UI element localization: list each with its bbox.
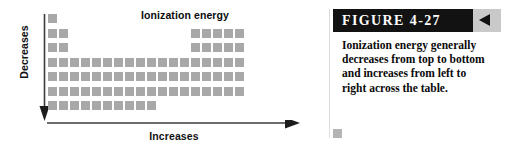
periodic-table-cell (202, 43, 211, 52)
periodic-table-cell (224, 43, 233, 52)
periodic-table-cell (48, 29, 57, 38)
periodic-table-cell (180, 72, 189, 81)
callout-corner-mark (333, 129, 342, 138)
periodic-table-cell (125, 58, 134, 67)
periodic-table-cell (114, 101, 123, 110)
periodic-table-grid (48, 14, 300, 115)
periodic-table-cell (213, 58, 222, 67)
periodic-table-cell (191, 43, 200, 52)
periodic-table-cell (235, 29, 244, 38)
x-axis-label: Increases (47, 130, 301, 142)
figure-header: FIGURE 4-27 (333, 9, 473, 32)
periodic-table-cell (114, 87, 123, 96)
periodic-table-cell (147, 58, 156, 67)
periodic-table-cell (70, 72, 79, 81)
periodic-table-cell (191, 29, 200, 38)
periodic-table-cell (81, 101, 90, 110)
periodic-table-cell (224, 29, 233, 38)
figure-caption-text: Ionization energy generally decreases fr… (342, 38, 493, 95)
periodic-table-cell (125, 72, 134, 81)
figure-caption-body: Ionization energy generally decreases fr… (333, 32, 501, 138)
periodic-table-cell (48, 72, 57, 81)
triangle-left-icon (479, 14, 490, 26)
periodic-table-cell (70, 58, 79, 67)
periodic-table-cell (59, 29, 68, 38)
periodic-table-cell (213, 29, 222, 38)
periodic-table-cell (92, 101, 101, 110)
periodic-table-cell (213, 72, 222, 81)
periodic-table-cell (125, 87, 134, 96)
periodic-table-cell (169, 87, 178, 96)
periodic-table-cell (235, 87, 244, 96)
periodic-table-cell (136, 87, 145, 96)
periodic-table-cell (136, 101, 145, 110)
periodic-table-cell (81, 72, 90, 81)
periodic-table-cell (92, 87, 101, 96)
periodic-table-cell (136, 72, 145, 81)
callout-header-band: FIGURE 4-27 (333, 9, 501, 32)
periodic-table-cell (235, 58, 244, 67)
periodic-table-cell (103, 101, 112, 110)
periodic-table-cell (48, 101, 57, 110)
callout-divider (329, 9, 330, 138)
periodic-table-cell (213, 87, 222, 96)
periodic-table-cell (81, 58, 90, 67)
periodic-table-cell (224, 58, 233, 67)
periodic-table-cell (224, 87, 233, 96)
periodic-table-cell (191, 87, 200, 96)
periodic-table-cell (158, 87, 167, 96)
periodic-table-cell (158, 72, 167, 81)
periodic-table-cell (158, 58, 167, 67)
periodic-table-cell (213, 43, 222, 52)
periodic-table-cell (202, 58, 211, 67)
y-axis-label: Decreases (18, 17, 30, 87)
periodic-table-cell (81, 87, 90, 96)
periodic-table-cell (70, 87, 79, 96)
periodic-table-cell (147, 87, 156, 96)
periodic-table-cell (125, 101, 134, 110)
periodic-table-cell (147, 101, 156, 110)
figure-callout: FIGURE 4-27 Ionization energy generally … (333, 9, 501, 138)
periodic-table-cell (114, 72, 123, 81)
periodic-table-cell (59, 43, 68, 52)
periodic-table-cell (224, 72, 233, 81)
periodic-table-cell (48, 87, 57, 96)
periodic-table-cell (59, 101, 68, 110)
periodic-table-cell (92, 58, 101, 67)
periodic-table-cell (48, 14, 57, 23)
periodic-table-cell (103, 58, 112, 67)
periodic-table-cell (180, 87, 189, 96)
periodic-table-cell (59, 58, 68, 67)
periodic-table-cell (114, 58, 123, 67)
ionization-energy-diagram: Ionization energy Decreases Increases (0, 0, 320, 147)
periodic-table-cell (191, 58, 200, 67)
periodic-table-cell (136, 58, 145, 67)
periodic-table-cell (48, 58, 57, 67)
figure-number-label: FIGURE 4-27 (342, 13, 441, 29)
periodic-table-cell (92, 72, 101, 81)
periodic-table-cell (235, 43, 244, 52)
figure-panel: Ionization energy Decreases Increases (0, 0, 510, 147)
periodic-table-cell (202, 72, 211, 81)
periodic-table-cell (48, 43, 57, 52)
periodic-table-cell (202, 87, 211, 96)
periodic-table-cell (191, 72, 200, 81)
periodic-table-cell (103, 87, 112, 96)
periodic-table-cell (59, 72, 68, 81)
arrow-right-icon (47, 118, 301, 130)
periodic-table-cell (180, 58, 189, 67)
periodic-table-cell (147, 72, 156, 81)
periodic-table-cell (59, 87, 68, 96)
periodic-table-cell (235, 72, 244, 81)
periodic-table-cell (169, 72, 178, 81)
periodic-table-cell (103, 72, 112, 81)
periodic-table-cell (70, 101, 79, 110)
periodic-table-cell (202, 29, 211, 38)
periodic-table-cell (169, 58, 178, 67)
